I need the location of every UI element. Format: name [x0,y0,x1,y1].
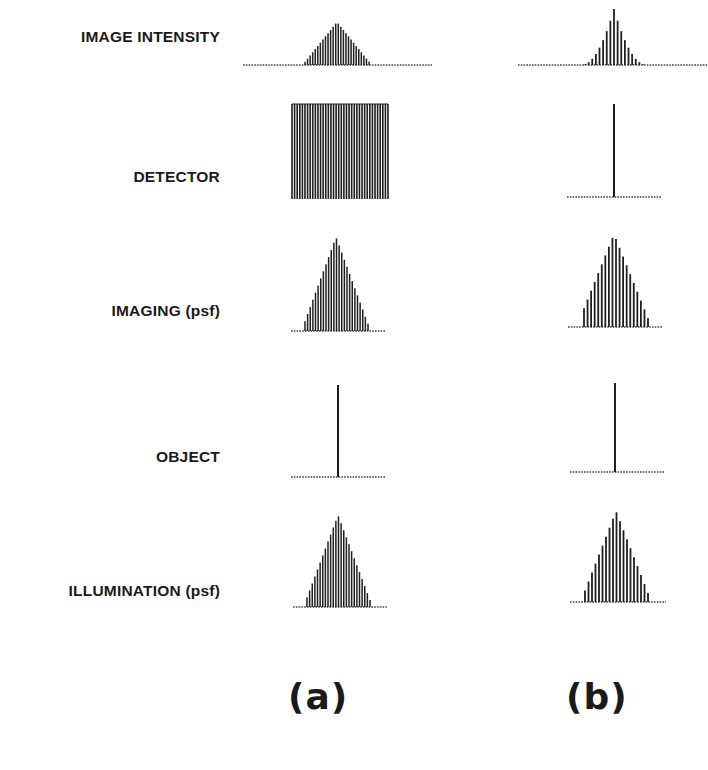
plot-b-illumination-psf [570,512,666,602]
plot-b-object [570,383,665,472]
plot-canvas [0,0,708,770]
plot-b-detector [567,104,662,197]
plot-a-illumination-psf [293,516,387,607]
plot-a-imaging-psf [291,238,385,331]
plot-b-imaging-psf [568,238,663,327]
plot-b-image-intensity [518,9,708,65]
plot-a-object [291,385,386,477]
plot-a-image-intensity [243,24,432,65]
plot-a-detector [292,104,388,199]
